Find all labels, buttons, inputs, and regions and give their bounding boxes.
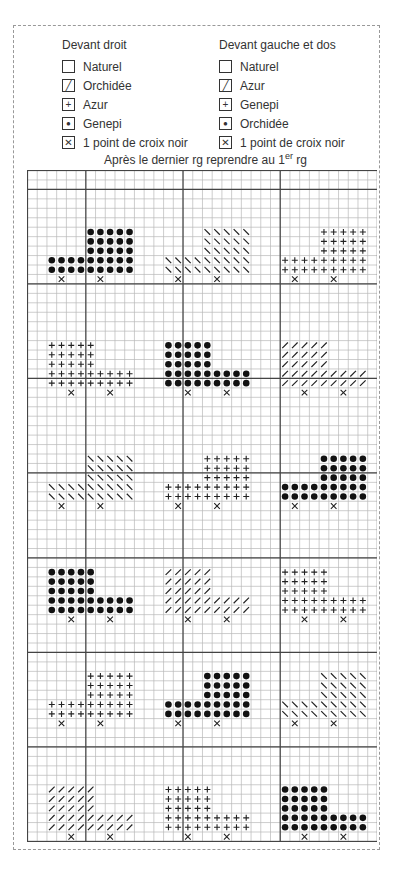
- plus-stitch-icon: [78, 371, 84, 377]
- backslash-stitch-icon: [49, 494, 55, 500]
- stitch-chart-grid: [27, 170, 377, 842]
- plus-stitch-icon: [233, 456, 239, 462]
- dot-stitch-icon: [87, 257, 94, 264]
- slash-stitch-icon: [127, 815, 133, 821]
- dot-stitch-icon: [292, 484, 299, 491]
- cross-stitch-icon: [292, 276, 298, 282]
- dot-stitch-icon: [350, 824, 357, 831]
- dot-stitch-icon: [360, 484, 367, 491]
- dot-stitch-icon: [340, 455, 347, 462]
- backslash-stitch-icon: [321, 692, 327, 698]
- legend-item: ✕1 point de croix noir: [219, 133, 345, 152]
- slash-icon: ╱: [62, 79, 75, 92]
- slash-stitch-icon: [302, 343, 308, 349]
- dot-stitch-icon: [97, 607, 104, 614]
- cross-stitch-icon: [98, 721, 104, 727]
- backslash-stitch-icon: [350, 711, 356, 717]
- plus-stitch-icon: [68, 380, 74, 386]
- plus-stitch-icon: [195, 815, 201, 821]
- plus-stitch-icon: [282, 569, 288, 575]
- dot-stitch-icon: [175, 701, 182, 708]
- dot-stitch-icon: [330, 484, 337, 491]
- dot-stitch-icon: [223, 380, 230, 387]
- plus-stitch-icon: [302, 607, 308, 613]
- backslash-stitch-icon: [205, 239, 211, 245]
- plus-stitch-icon: [88, 371, 94, 377]
- dot-stitch-icon: [68, 257, 75, 264]
- dot-stitch-icon: [223, 673, 230, 680]
- dot-stitch-icon: [360, 493, 367, 500]
- dot-stitch-icon: [350, 474, 357, 481]
- slash-stitch-icon: [341, 371, 347, 377]
- dot-stitch-icon: [117, 607, 124, 614]
- plus-stitch-icon: [214, 824, 220, 830]
- plus-stitch-icon: [127, 711, 133, 717]
- dot-stitch-icon: [340, 824, 347, 831]
- dot-stitch-icon: [68, 569, 75, 576]
- backslash-stitch-icon: [341, 683, 347, 689]
- dot-stitch-icon: [223, 692, 230, 699]
- slash-stitch-icon: [205, 579, 211, 585]
- backslash-stitch-icon: [175, 267, 181, 273]
- plus-stitch-icon: [195, 494, 201, 500]
- dot-stitch-icon: [330, 455, 337, 462]
- plus-stitch-icon: [59, 352, 65, 358]
- dot-stitch-icon: [223, 682, 230, 689]
- plus-stitch-icon: [214, 465, 220, 471]
- dot-stitch-icon: [58, 257, 65, 264]
- legend-label: Genepi: [83, 117, 122, 131]
- plus-stitch-icon: [331, 267, 337, 273]
- slash-stitch-icon: [49, 806, 55, 812]
- dot-stitch-icon: [301, 493, 308, 500]
- dot-stitch-icon: [107, 238, 114, 245]
- plus-stitch-icon: [78, 380, 84, 386]
- dot-stitch-icon: [292, 824, 299, 831]
- plus-stitch-icon: [117, 683, 123, 689]
- dot-stitch-icon: [360, 824, 367, 831]
- backslash-stitch-icon: [195, 257, 201, 263]
- dot-stitch-icon: [49, 588, 56, 595]
- plus-stitch-icon: [97, 673, 103, 679]
- plus-stitch-icon: [224, 824, 230, 830]
- backslash-stitch-icon: [341, 673, 347, 679]
- dot-stitch-icon: [360, 474, 367, 481]
- dot-stitch-icon: [117, 229, 124, 236]
- plus-stitch-icon: [204, 494, 210, 500]
- dot-stitch-icon: [321, 455, 328, 462]
- dot-stitch-icon: [117, 248, 124, 255]
- legend-devant-droit: Devant droit Naturel╱Orchidée+Azur●Genep…: [62, 38, 188, 152]
- plus-stitch-icon: [165, 484, 171, 490]
- plus-stitch-icon: [97, 701, 103, 707]
- slash-stitch-icon: [166, 598, 172, 604]
- plus-stitch-icon: [59, 701, 65, 707]
- slash-stitch-icon: [175, 569, 181, 575]
- dot-stitch-icon: [194, 351, 201, 358]
- plus-stitch-icon: [185, 786, 191, 792]
- plus-stitch-icon: [107, 371, 113, 377]
- slash-stitch-icon: [98, 815, 104, 821]
- backslash-stitch-icon: [360, 683, 366, 689]
- plus-stitch-icon: [233, 475, 239, 481]
- plus-stitch-icon: [311, 597, 317, 603]
- slash-stitch-icon: [68, 787, 74, 793]
- dot-stitch-icon: [78, 569, 85, 576]
- plus-stitch-icon: [224, 475, 230, 481]
- plus-stitch-icon: [321, 588, 327, 594]
- backslash-stitch-icon: [127, 484, 133, 490]
- slash-stitch-icon: [78, 824, 84, 830]
- backslash-stitch-icon: [292, 711, 298, 717]
- dot-stitch-icon: [97, 597, 104, 604]
- slash-stitch-icon: [175, 598, 181, 604]
- dot-stitch-icon: [204, 692, 211, 699]
- backslash-stitch-icon: [117, 465, 123, 471]
- plus-stitch-icon: [331, 238, 337, 244]
- cross-stitch-icon: [107, 390, 113, 396]
- dot-stitch-icon: [175, 370, 182, 377]
- backslash-stitch-icon: [107, 484, 113, 490]
- plus-stitch-icon: [175, 796, 181, 802]
- dot-stitch-icon: [321, 815, 328, 822]
- cross-stitch-icon: [341, 390, 347, 396]
- dot-stitch-icon: [204, 711, 211, 718]
- dot-stitch-icon: [282, 796, 289, 803]
- backslash-stitch-icon: [224, 257, 230, 263]
